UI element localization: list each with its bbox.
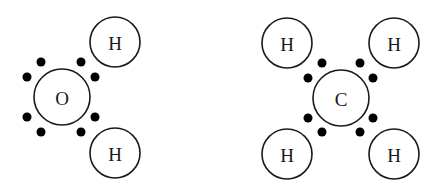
molecule-methane: HHHHC bbox=[262, 18, 419, 179]
electron-dot bbox=[369, 114, 378, 123]
electron-dot bbox=[304, 114, 313, 123]
atom-label: O bbox=[55, 88, 69, 109]
electron-dot bbox=[356, 128, 365, 137]
bonded-atom-h: H bbox=[90, 17, 140, 67]
electron-dot bbox=[369, 74, 378, 83]
electron-dot-diagram: HHOHHHHC bbox=[0, 0, 443, 189]
electron-dot bbox=[91, 73, 100, 82]
electron-dot bbox=[318, 59, 327, 68]
electron-dot bbox=[77, 58, 86, 67]
atom-label: H bbox=[387, 34, 401, 55]
atom-label: H bbox=[387, 145, 401, 166]
electron-dot bbox=[23, 73, 32, 82]
atom-label: H bbox=[108, 144, 122, 165]
central-atom-c: C bbox=[313, 70, 369, 126]
electron-dot bbox=[37, 58, 46, 67]
atom-label: H bbox=[108, 33, 122, 54]
atom-label: H bbox=[280, 34, 294, 55]
bonded-atom-h: H bbox=[90, 128, 140, 178]
diagram-canvas: HHOHHHHC bbox=[0, 0, 443, 189]
electron-dot bbox=[318, 128, 327, 137]
electron-dot bbox=[356, 59, 365, 68]
electron-dot bbox=[23, 113, 32, 122]
electron-dot bbox=[77, 128, 86, 137]
bonded-atom-h: H bbox=[262, 129, 312, 179]
electron-dot bbox=[304, 74, 313, 83]
bonded-atom-h: H bbox=[369, 18, 419, 68]
electron-dot bbox=[37, 128, 46, 137]
atom-label: C bbox=[335, 89, 348, 110]
atom-label: H bbox=[280, 145, 294, 166]
electron-dot bbox=[91, 113, 100, 122]
bonded-atom-h: H bbox=[262, 18, 312, 68]
bonded-atom-h: H bbox=[369, 129, 419, 179]
molecule-water: HHO bbox=[23, 17, 141, 178]
central-atom-o: O bbox=[34, 69, 90, 125]
